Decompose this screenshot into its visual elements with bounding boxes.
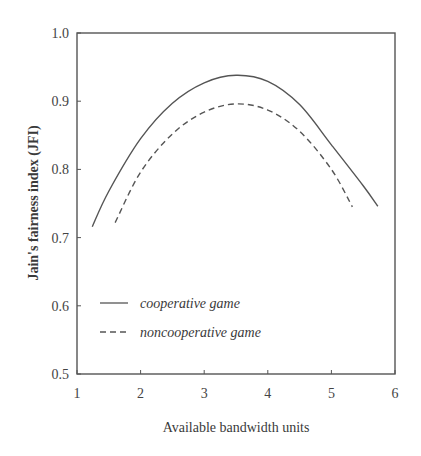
series-layer [92, 75, 378, 226]
x-tick-label: 3 [201, 386, 208, 401]
y-tick-label: 0.9 [52, 94, 70, 109]
y-tick-label: 0.5 [52, 367, 70, 382]
x-tick-label: 5 [328, 386, 335, 401]
y-axis-title: Jain's fairness index (JFI) [26, 125, 42, 281]
y-tick-label: 0.7 [52, 231, 70, 246]
x-tick-label: 1 [74, 386, 81, 401]
x-axis-title: Available bandwidth units [163, 420, 310, 435]
y-tick-label: 1.0 [52, 26, 70, 41]
x-tick-label: 4 [264, 386, 271, 401]
legend: cooperative game noncooperative game [100, 296, 261, 340]
line-chart: 123456 0.50.60.70.80.91.0 Available band… [0, 0, 421, 456]
noncooperative-game-line [115, 104, 352, 223]
legend-label-noncooperative: noncooperative game [140, 325, 261, 340]
legend-label-cooperative: cooperative game [140, 296, 240, 311]
x-tick-label: 6 [392, 386, 399, 401]
y-tick-label: 0.8 [52, 162, 70, 177]
x-tick-label: 2 [137, 386, 144, 401]
y-tick-label: 0.6 [52, 299, 70, 314]
cooperative-game-line [92, 75, 378, 226]
